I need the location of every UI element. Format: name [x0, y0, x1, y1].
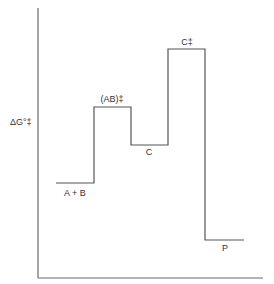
state-label-ab-transition: (AB)‡	[100, 94, 123, 104]
energy-diagram: ΔG°‡ A + B (AB)‡ C C‡ P	[0, 0, 274, 284]
state-label-c-transition: C‡	[181, 37, 193, 47]
y-axis-label: ΔG°‡	[10, 117, 32, 127]
state-label-c: C	[146, 147, 153, 157]
state-label-a-plus-b: A + B	[64, 188, 86, 198]
state-label-p: P	[222, 243, 228, 253]
energy-profile-line	[56, 49, 244, 240]
